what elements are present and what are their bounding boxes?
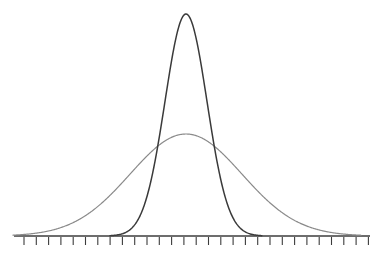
normal-distribution-figure [0, 0, 383, 265]
plot-canvas [0, 0, 383, 265]
axis-tick-group [24, 237, 368, 245]
narrow-normal-curve [110, 14, 262, 236]
wide-normal-curve [13, 134, 361, 235]
